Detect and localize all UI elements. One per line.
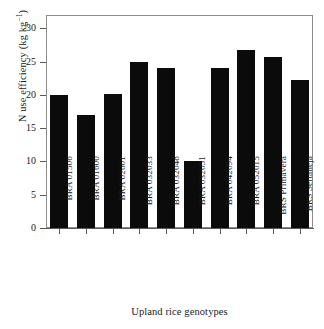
x-tick-5 bbox=[193, 229, 194, 234]
x-tick-1 bbox=[86, 229, 87, 234]
y-tick-0 bbox=[40, 228, 46, 229]
y-tick-label-5: 5 bbox=[12, 190, 36, 200]
x-tick-label-bra-02601: BRA 02601 bbox=[117, 156, 128, 236]
x-tick-0 bbox=[59, 229, 60, 234]
x-tick-9 bbox=[300, 229, 301, 234]
y-tick-label-10: 10 bbox=[12, 156, 36, 166]
y-tick-label-15: 15 bbox=[12, 123, 36, 133]
x-tick-label-bra-032033: BRA 032033 bbox=[144, 156, 155, 236]
x-tick-6 bbox=[220, 229, 221, 234]
x-tick-label-brs-primavera: BRS Primavera bbox=[278, 156, 289, 236]
x-tick-8 bbox=[273, 229, 274, 234]
y-axis-title-exponent: −1 bbox=[15, 13, 24, 21]
x-tick-label-bra-01600: BRA 01600 bbox=[91, 156, 102, 236]
x-tick-label-bra-052015: BRA 052015 bbox=[251, 156, 262, 236]
x-axis-title: Upland rice genotypes bbox=[46, 306, 313, 317]
x-tick-label-bra-01506: BRA 01506 bbox=[64, 156, 75, 236]
x-tick-3 bbox=[139, 229, 140, 234]
x-tick-2 bbox=[113, 229, 114, 234]
bar-chart-figure: N use efficiency (kg kg−1) 051015202530 … bbox=[0, 0, 324, 329]
x-tick-label-bra-042094: BRA 042094 bbox=[224, 156, 235, 236]
y-tick-label-20: 20 bbox=[12, 90, 36, 100]
y-axis-title-text: N use efficiency (kg kg bbox=[17, 22, 28, 123]
x-tick-7 bbox=[246, 229, 247, 234]
x-tick-label-brs-sertaneja: BRS Sertaneja bbox=[304, 156, 315, 236]
y-tick-label-0: 0 bbox=[12, 223, 36, 233]
x-tick-label-bra-032048: BRA 032048 bbox=[171, 156, 182, 236]
y-axis-title-tail: ) bbox=[17, 10, 28, 14]
x-tick-label-bra-032051: BRA 032051 bbox=[197, 156, 208, 236]
y-tick-label-30: 30 bbox=[12, 23, 36, 33]
x-tick-4 bbox=[166, 229, 167, 234]
y-tick-label-25: 25 bbox=[12, 57, 36, 67]
